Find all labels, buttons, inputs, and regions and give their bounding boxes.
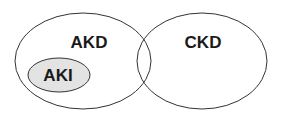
aki-label: AKI	[43, 66, 72, 85]
akd-ellipse	[15, 13, 151, 109]
ckd-label: CKD	[185, 33, 222, 52]
akd-label: AKD	[71, 33, 108, 52]
ckd-ellipse	[137, 13, 267, 109]
venn-diagram: AKD CKD AKI	[0, 0, 281, 113]
